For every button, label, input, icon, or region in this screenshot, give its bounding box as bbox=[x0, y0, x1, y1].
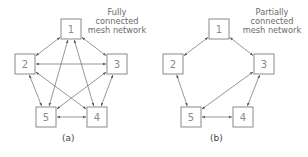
link-1-2 bbox=[36, 37, 60, 55]
node-1: 1 bbox=[61, 19, 81, 39]
node-label: 5 bbox=[188, 112, 194, 123]
node-label: 2 bbox=[170, 59, 176, 70]
edges-b bbox=[177, 37, 260, 117]
node-label: 4 bbox=[240, 112, 246, 123]
node-label: 2 bbox=[22, 59, 28, 70]
sublabel-b: (b) bbox=[210, 133, 223, 143]
node-label: 5 bbox=[43, 112, 49, 123]
link-3-5 bbox=[57, 72, 106, 109]
link-2-5 bbox=[29, 75, 41, 106]
link-1-4 bbox=[74, 40, 94, 106]
node-label: 3 bbox=[114, 59, 120, 70]
link-2-4 bbox=[36, 72, 86, 109]
link-1-3 bbox=[82, 37, 106, 55]
node-5: 5 bbox=[36, 107, 56, 127]
link-3-5 bbox=[202, 72, 253, 109]
link-3-4 bbox=[101, 75, 113, 106]
caption-partially-connected: Partially connected mesh network bbox=[240, 8, 304, 36]
node-label: 1 bbox=[216, 24, 222, 35]
node-3: 3 bbox=[254, 54, 274, 74]
node-4: 4 bbox=[233, 107, 253, 127]
node-1: 1 bbox=[209, 19, 229, 39]
caption-fully-connected: Fully connected mesh network bbox=[86, 8, 148, 36]
edges-a bbox=[29, 37, 112, 117]
node-3: 3 bbox=[107, 54, 127, 74]
sublabel-a: (a) bbox=[62, 133, 75, 143]
link-1-2 bbox=[184, 37, 208, 55]
caption-line: mesh network bbox=[240, 26, 304, 35]
node-5: 5 bbox=[181, 107, 201, 127]
node-2: 2 bbox=[15, 54, 35, 74]
node-label: 1 bbox=[68, 24, 74, 35]
node-label: 4 bbox=[94, 112, 100, 123]
link-3-4 bbox=[247, 75, 259, 106]
link-1-3 bbox=[230, 38, 253, 56]
caption-line: mesh network bbox=[86, 26, 148, 35]
node-4: 4 bbox=[87, 107, 107, 127]
node-label: 3 bbox=[261, 59, 267, 70]
link-1-5 bbox=[49, 40, 68, 106]
node-2: 2 bbox=[163, 54, 183, 74]
link-2-5 bbox=[177, 75, 188, 106]
